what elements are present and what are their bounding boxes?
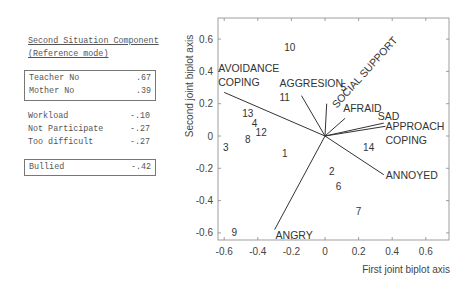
vector-aggresion bbox=[301, 96, 325, 136]
x-tick-label: 0.2 bbox=[352, 246, 366, 257]
vector-label-avoidance-coping: AVOIDANCECOPING bbox=[218, 62, 279, 88]
point-label: 7 bbox=[356, 206, 362, 217]
point-label: 12 bbox=[256, 127, 268, 138]
y-tick-label: 0.2 bbox=[199, 98, 213, 109]
y-axis-title: Second joint biplot axis bbox=[184, 35, 195, 137]
point-label: 11 bbox=[279, 92, 290, 103]
vector-label-social-support: SOCIAL SUPPORT bbox=[329, 33, 400, 110]
point-label: 3 bbox=[223, 142, 229, 153]
point-label: 1 bbox=[282, 148, 288, 159]
x-tick-label: -0.2 bbox=[283, 246, 301, 257]
x-tick-label: 0.4 bbox=[385, 246, 399, 257]
biplot-vectors: AVOIDANCECOPINGAGGRESIONSOCIAL SUPPORTAF… bbox=[218, 33, 444, 240]
vector-label-angry: ANGRY bbox=[276, 229, 313, 241]
y-tick-label: 0.6 bbox=[199, 34, 213, 45]
point-label: 10 bbox=[284, 42, 296, 53]
vector-label-annoyed: ANNOYED bbox=[386, 169, 438, 181]
point-label: 6 bbox=[336, 181, 342, 192]
x-axis-title: First joint biplot axis bbox=[362, 264, 450, 275]
x-tick-label: -0.6 bbox=[216, 246, 234, 257]
point-label: 13 bbox=[242, 108, 254, 119]
point-label: 9 bbox=[231, 227, 237, 238]
y-tick-label: -0.4 bbox=[196, 195, 214, 206]
x-tick-label: -0.4 bbox=[249, 246, 267, 257]
y-tick-label: 0.4 bbox=[199, 66, 213, 77]
vector-label-approach-coping: APPROACHCOPING bbox=[385, 120, 444, 146]
point-label: 5 bbox=[341, 82, 347, 93]
vector-label-afraid: AFRAID bbox=[343, 102, 382, 114]
x-tick-label: 0.6 bbox=[419, 246, 433, 257]
x-tick-label: 0 bbox=[322, 246, 328, 257]
vector-sad bbox=[325, 123, 384, 136]
y-tick-label: -0.2 bbox=[196, 163, 214, 174]
vector-label-aggresion: AGGRESION bbox=[279, 77, 343, 89]
vector-social-support bbox=[325, 104, 327, 136]
y-tick-label: -0.6 bbox=[196, 227, 214, 238]
point-label: 2 bbox=[329, 166, 335, 177]
point-label: 14 bbox=[363, 142, 375, 153]
point-label: 8 bbox=[245, 134, 251, 145]
vector-avoidance-coping bbox=[224, 92, 325, 136]
biplot-chart: -0.6-0.4-0.200.20.40.6-0.6-0.4-0.200.20.… bbox=[0, 0, 473, 285]
y-tick-label: 0 bbox=[207, 131, 213, 142]
